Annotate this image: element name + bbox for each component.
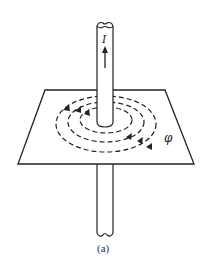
- lower-wire: [97, 164, 113, 236]
- caption: (a): [97, 242, 110, 255]
- wire-field-diagram: I φ (a): [0, 0, 205, 266]
- field-label: φ: [164, 131, 173, 145]
- current-label: I: [101, 33, 107, 46]
